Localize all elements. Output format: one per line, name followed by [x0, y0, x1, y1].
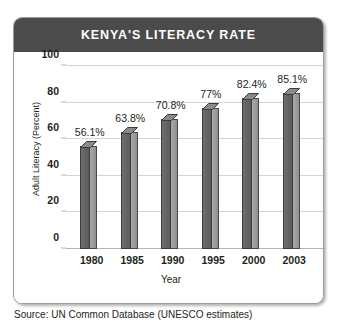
- bar-1985: 63.8%1985: [121, 132, 138, 249]
- bar-2003: 85.1%2003: [283, 93, 300, 249]
- bar-front-face: [121, 132, 131, 249]
- bar-side-face: [252, 98, 259, 249]
- bar-value-label-1985: 63.8%: [115, 112, 145, 124]
- y-tick-label-60: 60: [47, 121, 59, 133]
- bar-top-face: [202, 103, 219, 110]
- plot-region: Adult Literacy (Percent) 020406080100 56…: [14, 52, 323, 303]
- y-tick-label-40: 40: [47, 158, 59, 170]
- bar-body: [242, 98, 259, 249]
- bars-layer: 56.1%198063.8%198570.8%199077%199582.4%2…: [66, 66, 323, 249]
- bar-value-label-2003: 85.1%: [277, 73, 307, 85]
- bar-value-label-1995: 77%: [200, 88, 221, 100]
- x-tick-label-2003: 2003: [283, 254, 300, 266]
- x-tick-label-2000: 2000: [242, 254, 259, 266]
- chart-panel: KENYA'S LITERACY RATE Adult Literacy (Pe…: [13, 17, 324, 304]
- bar-side-face: [90, 146, 97, 249]
- bar-front-face: [242, 98, 252, 249]
- chart-axes: 020406080100 56.1%198063.8%198570.8%1990…: [66, 66, 323, 249]
- x-tick-label-1990: 1990: [161, 254, 178, 266]
- bar-side-face: [131, 132, 138, 249]
- bar-value-label-1980: 56.1%: [75, 126, 105, 138]
- bar-top-face: [161, 114, 178, 121]
- y-tick-label-80: 80: [47, 85, 59, 97]
- y-tick-label-0: 0: [53, 231, 59, 243]
- source-note: Source: UN Common Database (UNESCO estim…: [14, 309, 252, 320]
- y-tick-label-100: 100: [41, 48, 59, 60]
- bar-front-face: [202, 108, 212, 249]
- bar-top-face: [121, 127, 138, 134]
- chart-title-band: KENYA'S LITERACY RATE: [14, 18, 323, 52]
- bar-2000: 82.4%2000: [242, 98, 259, 249]
- bar-1990: 70.8%1990: [161, 119, 178, 249]
- y-axis-title: Adult Literacy (Percent): [31, 79, 41, 219]
- bar-body: [202, 108, 219, 249]
- chart-figure: KENYA'S LITERACY RATE Adult Literacy (Pe…: [0, 0, 350, 326]
- x-axis-title: Year: [66, 274, 276, 285]
- bar-top-face: [242, 93, 259, 100]
- bar-side-face: [293, 93, 300, 249]
- bar-value-label-1990: 70.8%: [156, 99, 186, 111]
- bar-body: [161, 119, 178, 249]
- chart-title: KENYA'S LITERACY RATE: [81, 28, 256, 42]
- x-tick-label-1980: 1980: [80, 254, 97, 266]
- bar-body: [80, 146, 97, 249]
- bar-top-face: [283, 88, 300, 95]
- bar-top-face: [80, 141, 97, 148]
- bar-1995: 77%1995: [202, 108, 219, 249]
- x-tick-label-1995: 1995: [202, 254, 219, 266]
- y-tick-label-20: 20: [47, 194, 59, 206]
- bar-front-face: [283, 93, 293, 249]
- bar-front-face: [80, 146, 90, 249]
- bar-side-face: [212, 108, 219, 249]
- bar-front-face: [161, 119, 171, 249]
- bar-1980: 56.1%1980: [80, 146, 97, 249]
- bar-body: [121, 132, 138, 249]
- bar-side-face: [171, 119, 178, 249]
- x-tick-label-1985: 1985: [121, 254, 138, 266]
- bar-value-label-2000: 82.4%: [237, 78, 267, 90]
- bar-body: [283, 93, 300, 249]
